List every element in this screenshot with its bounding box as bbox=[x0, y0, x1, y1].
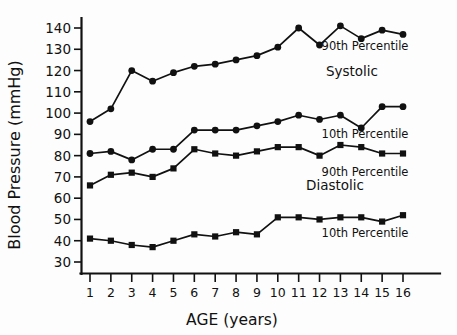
data-point-circle bbox=[254, 122, 261, 129]
y-tick-label: 80 bbox=[54, 148, 71, 164]
x-tick-mark-group bbox=[90, 274, 403, 282]
data-point-square bbox=[275, 144, 281, 150]
data-point-circle bbox=[128, 67, 135, 74]
y-axis-title-group: Blood Pressure (mmHg) bbox=[5, 60, 24, 250]
data-point-square bbox=[316, 153, 322, 159]
data-point-circle bbox=[316, 116, 323, 123]
data-point-square bbox=[212, 233, 218, 239]
data-point-square bbox=[150, 174, 156, 180]
y-tick-label: 130 bbox=[45, 41, 71, 57]
y-tick-mark-group bbox=[74, 28, 81, 262]
data-point-circle bbox=[212, 61, 219, 68]
data-point-square bbox=[191, 231, 197, 237]
data-point-circle bbox=[233, 57, 240, 64]
data-point-square bbox=[191, 146, 197, 152]
diastolic-10th-label: 10th Percentile bbox=[322, 226, 409, 240]
data-point-circle bbox=[87, 150, 94, 157]
data-point-circle bbox=[295, 25, 302, 32]
data-point-square bbox=[379, 150, 385, 156]
y-tick-label: 90 bbox=[54, 126, 71, 142]
data-point-circle bbox=[274, 44, 281, 51]
data-point-square bbox=[170, 165, 176, 171]
x-tick-label: 12 bbox=[312, 285, 328, 300]
data-point-circle bbox=[170, 69, 177, 76]
y-tick-label: 110 bbox=[45, 84, 71, 100]
y-tick-label: 140 bbox=[45, 20, 71, 36]
x-tick-label: 7 bbox=[211, 285, 219, 300]
data-point-circle bbox=[128, 156, 135, 163]
data-point-square bbox=[358, 214, 364, 220]
y-tick-label: 120 bbox=[45, 63, 71, 79]
x-tick-label: 14 bbox=[353, 285, 369, 300]
x-axis-title: AGE (years) bbox=[186, 311, 278, 329]
data-point-square bbox=[337, 142, 343, 148]
data-point-circle bbox=[400, 31, 407, 38]
y-axis-title: Blood Pressure (mmHg) bbox=[5, 60, 24, 250]
data-point-square bbox=[87, 182, 93, 188]
y-tick-label: 60 bbox=[54, 190, 71, 206]
x-tick-label: 5 bbox=[169, 285, 177, 300]
data-point-circle bbox=[400, 103, 407, 110]
y-tick-label-group: 14013012011010090807060504030 bbox=[45, 20, 71, 270]
data-point-square bbox=[233, 153, 239, 159]
x-tick-label: 16 bbox=[395, 285, 411, 300]
data-point-square bbox=[275, 214, 281, 220]
data-point-circle bbox=[149, 78, 156, 85]
x-tick-label: 3 bbox=[128, 285, 136, 300]
systolic-90th-label: 90th Percentile bbox=[322, 39, 409, 53]
data-point-circle bbox=[233, 127, 240, 134]
data-point-circle bbox=[337, 22, 344, 29]
diastolic-group-label: Diastolic bbox=[306, 177, 364, 193]
data-point-square bbox=[170, 238, 176, 244]
systolic-group-label: Systolic bbox=[326, 63, 378, 79]
data-point-square bbox=[379, 218, 385, 224]
x-tick-label: 13 bbox=[332, 285, 348, 300]
data-point-square bbox=[358, 144, 364, 150]
y-tick-label: 40 bbox=[54, 233, 71, 249]
data-point-square bbox=[296, 214, 302, 220]
data-point-square bbox=[400, 212, 406, 218]
data-point-circle bbox=[254, 52, 261, 59]
data-point-square bbox=[233, 229, 239, 235]
data-point-square bbox=[87, 236, 93, 242]
data-point-square bbox=[150, 244, 156, 250]
y-tick-label: 50 bbox=[54, 211, 71, 227]
x-tick-label: 8 bbox=[232, 285, 240, 300]
x-tick-label: 4 bbox=[149, 285, 157, 300]
data-point-circle bbox=[379, 103, 386, 110]
data-point-circle bbox=[274, 118, 281, 125]
chart-canvas: Blood Pressure (mmHg) 140130120110100908… bbox=[0, 0, 457, 335]
x-tick-label: 10 bbox=[270, 285, 286, 300]
data-point-square bbox=[400, 150, 406, 156]
y-tick-label: 100 bbox=[45, 105, 71, 121]
data-point-circle bbox=[149, 146, 156, 153]
data-point-square bbox=[129, 242, 135, 248]
data-point-square bbox=[108, 238, 114, 244]
data-point-square bbox=[337, 214, 343, 220]
data-point-square bbox=[296, 144, 302, 150]
data-point-circle bbox=[191, 127, 198, 134]
y-tick-label: 70 bbox=[54, 169, 71, 185]
x-tick-label: 11 bbox=[291, 285, 307, 300]
x-tick-label: 2 bbox=[107, 285, 115, 300]
data-point-square bbox=[316, 216, 322, 222]
x-tick-label: 1 bbox=[86, 285, 94, 300]
data-point-square bbox=[254, 231, 260, 237]
data-point-circle bbox=[87, 118, 94, 125]
data-point-circle bbox=[170, 146, 177, 153]
x-tick-label: 6 bbox=[190, 285, 198, 300]
x-tick-label: 15 bbox=[374, 285, 390, 300]
blood-pressure-chart: Blood Pressure (mmHg) 140130120110100908… bbox=[0, 0, 457, 335]
data-point-circle bbox=[379, 27, 386, 34]
data-point-circle bbox=[191, 63, 198, 70]
data-point-square bbox=[108, 172, 114, 178]
data-point-circle bbox=[107, 148, 114, 155]
x-tick-label-group: 12345678910111213141516 bbox=[86, 285, 411, 300]
chart-annotation-group: 90th PercentileSystolic10th Percentile90… bbox=[306, 39, 408, 240]
data-point-square bbox=[254, 148, 260, 154]
data-point-square bbox=[212, 150, 218, 156]
data-point-circle bbox=[295, 112, 302, 119]
data-point-square bbox=[129, 170, 135, 176]
x-tick-label: 9 bbox=[253, 285, 261, 300]
systolic-10th-label: 10th Percentile bbox=[322, 127, 409, 141]
